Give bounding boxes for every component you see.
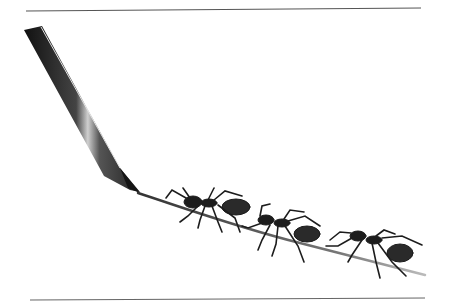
top-rule xyxy=(26,8,421,11)
bottom-rule xyxy=(30,298,425,300)
pencil-icon xyxy=(24,26,140,193)
ant-icon xyxy=(166,188,250,232)
ant-icon xyxy=(242,204,320,262)
illustration xyxy=(0,0,451,307)
drawn-line xyxy=(138,193,425,275)
illustration-canvas xyxy=(0,0,451,307)
